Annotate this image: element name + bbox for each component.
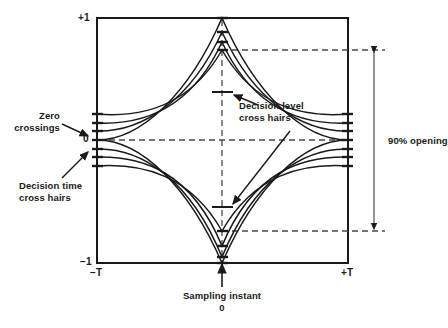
decision-time-crosshairs-right (342, 114, 353, 166)
decision-time-line1: Decision time (19, 180, 114, 192)
zero-crossings-line1: Zero (0, 110, 60, 122)
sampling-instant-annotation: Sampling instant 0 (157, 290, 287, 313)
decision-time-crosshairs-left (92, 114, 103, 166)
y-axis-top-label: +1 (78, 12, 90, 23)
decision-time-line2: cross hairs (19, 192, 114, 204)
sampling-instant-line1: Sampling instant (157, 290, 287, 302)
zero-crossings-line2: crossings (0, 122, 60, 134)
decision-level-annotation: Decision level cross hairs (239, 100, 334, 123)
y-axis-bottom-label: −1 (80, 256, 92, 267)
sampling-instant-line2: 0 (157, 302, 287, 314)
x-axis-left-label: −T (90, 267, 102, 278)
x-axis-right-label: +T (341, 267, 353, 278)
decision-level-line1: Decision level (239, 100, 334, 112)
y-axis-zero-label: 0 (83, 133, 89, 144)
decision-level-line2: cross hairs (239, 112, 334, 124)
decision-time-annotation: Decision time cross hairs (19, 180, 114, 203)
zero-crossings-annotation: Zero crossings (0, 110, 60, 133)
opening-annotation: 90% opening (388, 135, 448, 147)
decision-time-leader (62, 152, 88, 178)
decision-level-crosshairs (212, 92, 233, 207)
decision-level-leader-lower (233, 131, 290, 204)
